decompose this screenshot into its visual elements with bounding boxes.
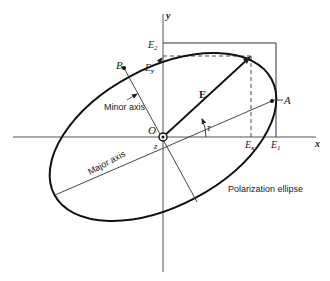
point-b-label: B bbox=[116, 59, 123, 71]
e2-label: E2 bbox=[147, 39, 158, 52]
point-a-label: A bbox=[283, 94, 291, 106]
ex-label: Ex bbox=[244, 139, 255, 152]
minor-axis-label: Minor axis bbox=[104, 102, 146, 112]
minor-axis-leader bbox=[127, 94, 137, 100]
e-vector-label: E bbox=[199, 88, 206, 100]
x-axis-label: x bbox=[314, 138, 320, 149]
z-axis-label: z bbox=[153, 141, 158, 151]
polarization-ellipse-diagram: y x z O E2 Ey Ex E1 E A B τ Minor axis M… bbox=[0, 0, 330, 281]
e1-label: E1 bbox=[270, 139, 281, 152]
point-a-marker bbox=[270, 99, 274, 103]
y-axis-label: y bbox=[165, 10, 171, 21]
polarization-ellipse-label: Polarization ellipse bbox=[228, 184, 303, 194]
tau-angle-arc bbox=[202, 119, 206, 137]
tau-label: τ bbox=[207, 122, 211, 133]
z-axis-dot bbox=[162, 136, 165, 139]
origin-label: O bbox=[148, 124, 156, 136]
ey-label: Ey bbox=[144, 62, 155, 75]
